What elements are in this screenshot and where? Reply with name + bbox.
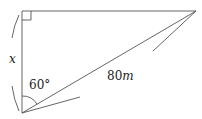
construction-arc-lower <box>12 86 19 111</box>
triangle-diagram <box>0 0 202 119</box>
angle-arc <box>22 96 37 104</box>
hyp-unit: m <box>122 69 133 83</box>
hypotenuse <box>22 11 196 113</box>
label-hypotenuse: 80m <box>107 69 134 83</box>
label-angle: 60° <box>29 78 50 92</box>
extra-ray-bottom <box>22 97 80 113</box>
extra-ray-top <box>153 11 196 51</box>
right-angle-marker <box>22 11 31 20</box>
hyp-number: 80 <box>107 69 122 83</box>
construction-arc-upper <box>12 15 19 38</box>
label-x: x <box>9 52 16 66</box>
